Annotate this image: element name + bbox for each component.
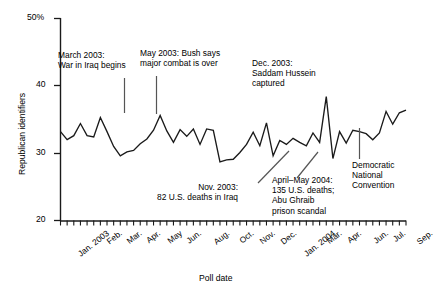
line-chart-plot — [0, 0, 433, 293]
series-republican-identifiers — [61, 97, 407, 162]
annotation-line: Democratic — [352, 160, 394, 170]
chart-container: 50% 40 30 20 Republican identifiers Jan.… — [0, 0, 433, 293]
x-axis-title: Poll date — [199, 273, 232, 283]
annotation-line: Convention — [352, 180, 394, 190]
annotation-abu-ghraib: April–May 2004: 135 U.S. deaths; Abu Ghr… — [272, 175, 334, 216]
annotation-line: 82 U.S. deaths in Iraq — [157, 192, 238, 202]
annotation-dec-2003-saddam: Dec. 2003: Saddam Hussein captured — [252, 58, 316, 89]
y-axis-group — [54, 18, 61, 221]
annotation-leader-lines — [125, 76, 360, 183]
annotation-march-2003-war: March 2003: War in Iraq begins — [58, 50, 126, 70]
annotation-line: War in Iraq begins — [58, 60, 126, 70]
y-axis-label-30: 30 — [36, 147, 46, 157]
annotation-line: May 2003: Bush says — [140, 48, 220, 58]
annotation-nov-2003-deaths: Nov. 2003: 82 U.S. deaths in Iraq — [157, 182, 238, 202]
annotation-line: March 2003: — [58, 50, 126, 60]
annotation-line: Nov. 2003: — [157, 182, 238, 192]
x-axis-group — [61, 221, 407, 226]
annotation-may-2003-combat: May 2003: Bush says major combat is over — [140, 48, 220, 68]
annotation-line: National — [352, 170, 394, 180]
annotation-dnc: Democratic National Convention — [352, 160, 394, 191]
annotation-line: Dec. 2003: — [252, 58, 316, 68]
annotation-line: prison scandal — [272, 206, 334, 216]
annotation-line: Abu Ghraib — [272, 195, 334, 205]
annotation-line: major combat is over — [140, 58, 220, 68]
y-axis-label-40: 40 — [36, 79, 46, 89]
annotation-line: 135 U.S. deaths; — [272, 185, 334, 195]
annotation-line: April–May 2004: — [272, 175, 334, 185]
annotation-line: captured — [252, 78, 316, 88]
annotation-line: Saddam Hussein — [252, 68, 316, 78]
y-axis-label-50: 50% — [27, 12, 44, 22]
y-axis-label-20: 20 — [36, 214, 46, 224]
y-axis-title: Republican identifiers — [17, 93, 27, 175]
